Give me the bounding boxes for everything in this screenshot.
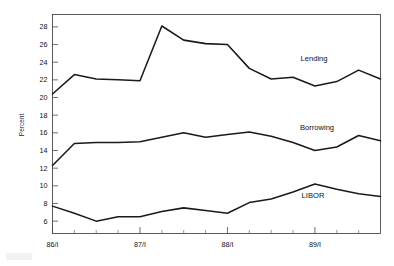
y-tick-label: 26 [40,40,48,49]
y-tick-label: 6 [44,217,48,226]
x-axis-ticks [53,227,381,234]
y-tick-label: 10 [40,181,48,190]
x-axis-tick-labels: 86/I87/I88/I89/I [47,240,321,249]
caption-artifact [6,253,32,260]
y-tick-label: 12 [40,164,48,173]
y-axis-ticks: 6810121416182022242628 [40,22,59,225]
x-tick-label: 87/I [134,240,146,249]
y-tick-label: 28 [40,22,48,31]
y-axis-title: Percent [18,114,25,137]
chart-figure: 6810121416182022242628 86/I87/I88/I89/I … [0,0,394,266]
series-label-libor: LIBOR [302,191,325,200]
series-line-libor [53,184,381,221]
y-tick-label: 8 [44,199,48,208]
series-line-lending [53,26,381,94]
series-line-borrowing [53,132,381,166]
y-tick-label: 16 [40,128,48,137]
y-tick-label: 24 [40,58,48,67]
x-tick-label: 89/I [309,240,321,249]
y-tick-label: 22 [40,75,48,84]
x-tick-label: 86/I [47,240,59,249]
line-chart: 6810121416182022242628 86/I87/I88/I89/I … [0,0,394,266]
y-tick-label: 14 [40,146,48,155]
series-label-borrowing: Borrowing [300,123,334,132]
series-label-lending: Lending [300,54,327,63]
y-tick-label: 18 [40,111,48,120]
x-tick-label: 88/I [221,240,233,249]
y-tick-label: 20 [40,93,48,102]
